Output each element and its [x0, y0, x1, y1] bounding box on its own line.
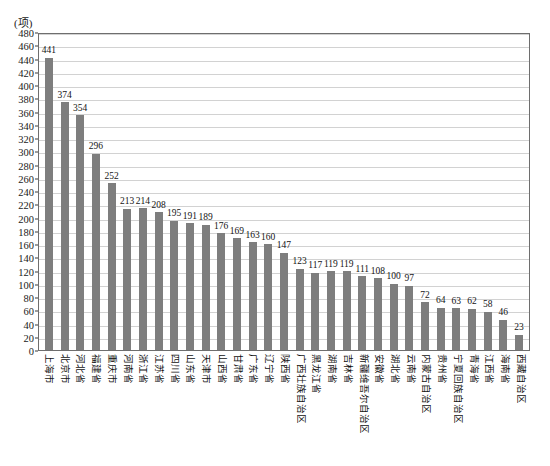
bar[interactable]	[155, 212, 163, 350]
bar-slot: 191	[182, 34, 198, 350]
bar[interactable]	[452, 308, 460, 350]
x-axis-tick: 山西省	[213, 352, 229, 464]
bar[interactable]	[92, 154, 100, 350]
bar-slot: 441	[41, 34, 57, 350]
x-axis-tick: 内蒙古自治区	[418, 352, 434, 464]
x-axis-tick-label: 北京市	[59, 354, 69, 384]
bar-value-label: 97	[405, 274, 415, 284]
bar[interactable]	[123, 209, 131, 350]
bar[interactable]	[421, 302, 429, 350]
bar-slot: 108	[370, 34, 386, 350]
bar-value-label: 189	[198, 213, 212, 223]
x-axis-tick: 福建省	[87, 352, 103, 464]
bar[interactable]	[405, 286, 413, 350]
bar[interactable]	[468, 309, 476, 350]
y-axis-tick-label: 300	[18, 147, 34, 158]
bar-value-label: 163	[245, 231, 259, 241]
bar[interactable]	[170, 221, 178, 350]
x-axis-tick-label: 吉林省	[342, 354, 352, 384]
bar-value-label: 72	[420, 291, 430, 301]
bar[interactable]	[249, 242, 257, 350]
y-axis-tick-label: 140	[18, 253, 34, 264]
x-axis-tick: 江苏省	[150, 352, 166, 464]
bar[interactable]	[139, 208, 147, 350]
bar-slot: 97	[401, 34, 417, 350]
bar[interactable]	[186, 223, 194, 350]
bar-value-label: 191	[183, 212, 197, 222]
x-axis-tick: 河北省	[71, 352, 87, 464]
x-axis-tick: 重庆市	[103, 352, 119, 464]
bar-value-label: 160	[261, 233, 275, 243]
bar-slot: 23	[511, 34, 527, 350]
bar-slot: 117	[307, 34, 323, 350]
bar[interactable]	[499, 320, 507, 350]
x-axis-tick-label: 山东省	[185, 354, 195, 384]
bar[interactable]	[108, 183, 116, 350]
bar-slot: 296	[88, 34, 104, 350]
bar[interactable]	[217, 233, 225, 350]
bar[interactable]	[437, 308, 445, 350]
x-axis-tick-label: 浙江省	[138, 354, 148, 384]
bar[interactable]	[390, 284, 398, 350]
bar-value-label: 354	[73, 104, 87, 114]
y-axis-tick-label: 280	[18, 160, 34, 171]
bar-value-label: 214	[136, 197, 150, 207]
x-axis-tick-label: 云南省	[405, 354, 415, 384]
x-axis-tick: 贵州省	[433, 352, 449, 464]
x-axis-tick: 山东省	[182, 352, 198, 464]
y-axis-tick-label: 400	[18, 81, 34, 92]
bar-slot: 58	[480, 34, 496, 350]
x-axis-tick: 河南省	[119, 352, 135, 464]
y-axis-tick-label: 440	[18, 54, 34, 65]
bar[interactable]	[374, 278, 382, 350]
x-axis-tick: 北京市	[56, 352, 72, 464]
bar-slot: 176	[213, 34, 229, 350]
bar[interactable]	[233, 238, 241, 350]
bar-slot: 119	[323, 34, 339, 350]
bar-value-label: 119	[324, 260, 338, 270]
x-axis-tick-label: 广东省	[248, 354, 258, 384]
x-axis-tick: 海南省	[496, 352, 512, 464]
x-axis-tick-label: 上海市	[43, 354, 53, 384]
x-axis-tick-label: 湖南省	[326, 354, 336, 384]
y-axis-tick-label: 460	[18, 41, 34, 52]
x-axis-tick-label: 湖北省	[389, 354, 399, 384]
bar[interactable]	[202, 225, 210, 350]
bar[interactable]	[343, 271, 351, 350]
x-axis-tick-label: 山西省	[216, 354, 226, 384]
bar[interactable]	[264, 244, 272, 350]
x-axis-tick-label: 江西省	[484, 354, 494, 384]
bar-value-label: 64	[436, 296, 446, 306]
bar-slot: 214	[135, 34, 151, 350]
x-axis-tick: 辽宁省	[260, 352, 276, 464]
bar[interactable]	[61, 102, 69, 350]
y-axis-tick-label: 20	[24, 332, 35, 343]
y-axis-tick-label: 320	[18, 134, 34, 145]
bar[interactable]	[45, 58, 53, 350]
x-axis-tick: 四川省	[166, 352, 182, 464]
x-axis-tick-label: 天津市	[200, 354, 210, 384]
bar-slot: 119	[339, 34, 355, 350]
x-axis-tick-label: 贵州省	[436, 354, 446, 384]
y-axis-tick-label: 340	[18, 120, 34, 131]
bar[interactable]	[76, 115, 84, 350]
x-axis-tick: 天津市	[197, 352, 213, 464]
bar[interactable]	[280, 253, 288, 350]
bar[interactable]	[484, 312, 492, 350]
bar-slot: 160	[260, 34, 276, 350]
bar-value-label: 208	[151, 201, 165, 211]
bar[interactable]	[515, 335, 523, 350]
bar[interactable]	[311, 273, 319, 351]
bar-slot: 208	[151, 34, 167, 350]
y-axis-tick-label: 120	[18, 266, 34, 277]
bar-value-label: 252	[104, 172, 118, 182]
bar-chart: (项) 020406080100120140160180200220240260…	[0, 0, 550, 466]
plot-area: 4413743542962522132142081951911891761691…	[38, 33, 530, 351]
bar[interactable]	[296, 269, 304, 350]
bar[interactable]	[358, 276, 366, 350]
x-axis-tick-label: 河南省	[122, 354, 132, 384]
x-axis-tick: 青海省	[465, 352, 481, 464]
x-axis-tick-label: 海南省	[499, 354, 509, 384]
y-axis-tick-label: 100	[18, 279, 34, 290]
bar[interactable]	[327, 271, 335, 350]
